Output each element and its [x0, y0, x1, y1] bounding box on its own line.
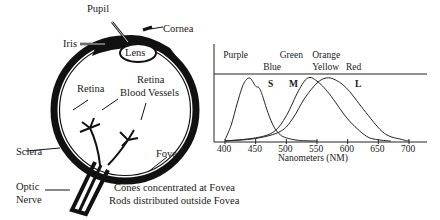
series-label-M: M — [289, 80, 298, 90]
pupil-label: Pupil — [87, 4, 109, 15]
optic-nerve-label-line2: Nerve — [16, 195, 42, 206]
retina-blood-vessels-label-line1: Retina — [137, 75, 164, 86]
lens-label: Lens — [125, 48, 145, 59]
curve-M — [225, 77, 391, 141]
caption-cones: Cones concentrated at Fovea — [114, 183, 235, 194]
color-label-blue: Blue — [263, 63, 281, 73]
color-label-purple: Purple — [223, 51, 248, 61]
retina-blood-vessels-label-line2: Blood Vessels — [120, 88, 179, 99]
series-label-L: L — [355, 80, 361, 90]
color-label-red: Red — [346, 63, 361, 73]
fovea-label: Fovea — [156, 149, 182, 160]
sclera-label: Sclera — [16, 147, 42, 158]
iris-label: Iris — [63, 39, 77, 50]
retina-label: Retina — [77, 84, 104, 95]
x-tick-700: 700 — [401, 145, 415, 155]
color-label-yellow: Yellow — [312, 63, 339, 73]
color-label-green: Green — [280, 51, 303, 61]
x-axis-title: Nanometers (NM) — [278, 154, 348, 164]
color-label-orange: Orange — [312, 51, 340, 61]
optic-nerve-label-line1: Optic — [16, 182, 39, 193]
x-tick-650: 650 — [370, 145, 384, 155]
series-label-S: S — [268, 80, 273, 90]
curve-L — [225, 78, 409, 141]
cornea-label: Cornea — [163, 24, 193, 35]
x-tick-450: 450 — [248, 145, 262, 155]
x-tick-400: 400 — [217, 145, 231, 155]
caption-rods: Rods distributed outside Fovea — [109, 196, 239, 207]
